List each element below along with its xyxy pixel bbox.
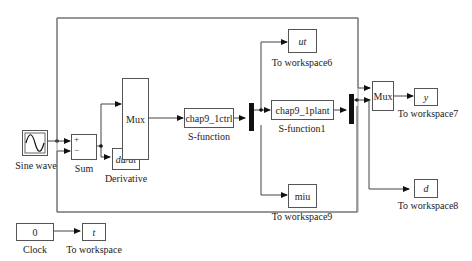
clock-label: Clock xyxy=(23,244,47,255)
to-workspace6-label: To workspace6 xyxy=(272,57,333,68)
s-function-label: S-function xyxy=(188,131,230,142)
mux-block-2[interactable]: Mux xyxy=(372,81,394,111)
sine-wave-block[interactable] xyxy=(22,130,48,156)
to-workspace6-block[interactable]: ut xyxy=(288,29,317,53)
clock-block[interactable]: 0 xyxy=(16,223,54,241)
s-function-plant-block[interactable]: chap9_1plant xyxy=(271,100,334,120)
s-function-ctrl-block[interactable]: chap9_1ctrl xyxy=(184,108,234,128)
s-function1-label: S-function1 xyxy=(278,123,325,134)
ut-text: ut xyxy=(299,36,307,47)
plant-text: chap9_1plant xyxy=(276,105,330,116)
demux-bar-2[interactable] xyxy=(349,94,354,124)
sum-label: Sum xyxy=(75,163,93,174)
simulink-canvas: Sine wave + − Sum du/dt Derivative Mux c… xyxy=(0,0,472,261)
mux-2-text: Mux xyxy=(374,91,393,102)
to-workspace7-block[interactable]: y xyxy=(414,88,438,106)
to-workspace8-label: To workspace8 xyxy=(398,200,459,211)
sum-minus-port: − xyxy=(74,145,79,155)
demux-bar-1[interactable] xyxy=(249,103,254,131)
sine-wave-icon xyxy=(24,132,46,154)
miu-text: miu xyxy=(295,191,311,202)
to-workspace9-label: To workspace9 xyxy=(272,211,333,222)
to-workspace-label: To workspace xyxy=(66,244,122,255)
derivative-label: Derivative xyxy=(105,173,147,184)
to-workspace9-block[interactable]: miu xyxy=(288,184,317,208)
to-workspace-block[interactable]: t xyxy=(82,223,106,241)
t-text: t xyxy=(93,227,96,238)
d-text: d xyxy=(424,183,429,194)
to-workspace7-label: To workspace7 xyxy=(398,108,459,119)
y-text: y xyxy=(424,92,428,103)
signal-lines xyxy=(0,0,472,261)
mux-block-1[interactable]: Mux xyxy=(122,78,149,160)
clock-text: 0 xyxy=(33,227,38,238)
ctrl-text: chap9_1ctrl xyxy=(185,113,232,124)
mux-1-text: Mux xyxy=(126,114,145,125)
to-workspace8-block[interactable]: d xyxy=(414,179,438,198)
sum-plus-port: + xyxy=(74,134,79,144)
sine-wave-label: Sine wave xyxy=(15,160,56,171)
